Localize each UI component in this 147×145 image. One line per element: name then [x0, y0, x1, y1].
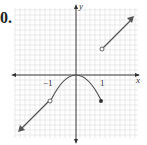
x-axis-arrow-left-icon	[11, 73, 16, 77]
y-axis-label: y	[78, 1, 83, 11]
tick-label-one: 1	[100, 78, 105, 88]
open-point-left	[48, 99, 52, 103]
right-ray	[103, 20, 131, 48]
open-point-upper	[100, 47, 104, 51]
tick-label-neg-one: −1	[43, 78, 53, 88]
closed-point-right	[99, 99, 103, 103]
y-axis-arrow-down-icon	[74, 139, 78, 144]
y-axis-arrow-up-icon	[74, 4, 78, 9]
x-axis-label: x	[135, 75, 140, 85]
function-graph: −1 1 x y	[0, 0, 147, 145]
right-ray-arrow-icon	[127, 16, 134, 23]
